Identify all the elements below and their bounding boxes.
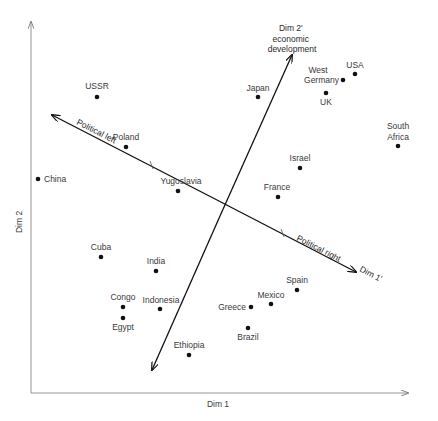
label-indonesia: Indonesia (143, 295, 180, 305)
x-axis-label: Dim 1 (207, 399, 229, 409)
label-mexico: Mexico (258, 290, 285, 300)
point-usa (353, 72, 358, 77)
label-france: France (264, 182, 291, 192)
label-poland: Poland (113, 132, 140, 142)
point-west-germany (341, 78, 346, 83)
label-germany: Germany (304, 75, 340, 85)
label-cuba: Cuba (91, 242, 112, 252)
label-africa: Africa (387, 132, 409, 142)
label-india: India (147, 256, 166, 266)
label-china: China (44, 174, 66, 184)
label-congo: Congo (110, 292, 135, 302)
point-cuba (99, 255, 104, 260)
point-france (276, 195, 281, 200)
political-right-label: Political right (295, 233, 343, 264)
point-china (36, 177, 41, 182)
label-uk: UK (320, 97, 332, 107)
point-poland (124, 145, 129, 150)
label-west: West (308, 65, 328, 75)
point-israel (298, 166, 303, 171)
label-ussr: USSR (85, 81, 109, 91)
label-yugoslavia: Yugoslavia (160, 176, 201, 186)
point-india (154, 269, 159, 274)
dim2-prime-label: Dim 2' economic development (268, 23, 317, 54)
label-ethiopia: Ethiopia (174, 340, 205, 350)
point-mexico (269, 302, 274, 307)
data-points (36, 72, 401, 358)
point-egypt (121, 316, 126, 321)
point-ussr (95, 95, 100, 100)
dim1-prime-label: Dim 1' (358, 264, 384, 284)
point-spain (295, 288, 300, 293)
label-egypt: Egypt (112, 322, 134, 332)
label-greece: Greece (218, 302, 246, 312)
label-south: South (387, 121, 409, 131)
point-japan (256, 95, 261, 100)
point-greece (249, 305, 254, 310)
label-spain: Spain (286, 275, 308, 285)
label-usa: USA (346, 60, 364, 70)
point-indonesia (158, 307, 163, 312)
label-brazil: Brazil (237, 332, 258, 342)
point-brazil (246, 326, 251, 331)
point-congo (121, 305, 126, 310)
label-israel: Israel (290, 153, 311, 163)
dim2-prime-axis (152, 55, 292, 370)
point-yugoslavia (176, 189, 181, 194)
point-ethiopia (187, 353, 192, 358)
label-japan: Japan (246, 83, 269, 93)
y-axis-label: Dim 2 (14, 211, 24, 233)
mds-scatter-chart: Dim 2 Dim 1 Political left Political rig… (0, 0, 438, 421)
point-south-africa (396, 144, 401, 149)
point-uk (324, 91, 329, 96)
